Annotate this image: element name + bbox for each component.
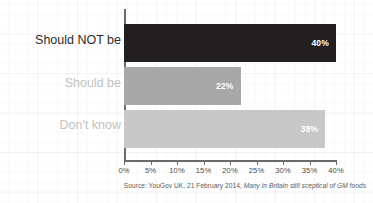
x-axis-tick-label: 20%	[222, 166, 238, 175]
x-axis-tick-label: 35%	[302, 166, 318, 175]
bar-value-label: 38%	[301, 124, 319, 134]
x-axis-tick	[151, 161, 152, 165]
x-axis-tick-label: 0%	[118, 166, 129, 175]
bar-should-not-be[interactable]	[124, 24, 336, 62]
chart-canvas: 40% 22% 38% Should NOT be Should be Don'…	[0, 0, 373, 203]
plot-area: 40% 22% 38%	[124, 10, 336, 160]
x-axis-tick	[283, 161, 284, 165]
bar-dont-know[interactable]	[124, 110, 325, 148]
bar-value-label: 40%	[311, 38, 329, 48]
bar-row: 22%	[124, 67, 241, 105]
x-axis-tick-label: 5%	[145, 166, 156, 175]
category-label-dont-know: Don't know	[60, 118, 121, 132]
x-axis-tick-label: 25%	[249, 166, 265, 175]
category-label-should-be: Should be	[65, 76, 121, 90]
x-axis-tick	[257, 161, 258, 165]
x-axis-tick	[336, 161, 337, 165]
source-note-prefix: Source: YouGov UK, 21 February 2014,	[124, 182, 244, 189]
category-label-should-not-be: Should NOT be	[35, 33, 121, 47]
x-axis-tick-label: 10%	[169, 166, 185, 175]
x-axis-tick-label: 40%	[328, 166, 344, 175]
x-axis-tick-label: 15%	[196, 166, 212, 175]
source-note: Source: YouGov UK, 21 February 2014, Man…	[0, 182, 366, 189]
source-note-title: Many in Britain still sceptical of GM fo…	[244, 182, 366, 189]
bar-row: 38%	[124, 110, 325, 148]
x-axis-tick	[310, 161, 311, 165]
x-axis-tick	[177, 161, 178, 165]
bar-row: 40%	[124, 24, 336, 62]
x-axis-tick	[230, 161, 231, 165]
x-axis-tick	[124, 161, 125, 165]
x-axis-tick	[204, 161, 205, 165]
x-axis-tick-label: 30%	[275, 166, 291, 175]
bar-value-label: 22%	[216, 81, 234, 91]
